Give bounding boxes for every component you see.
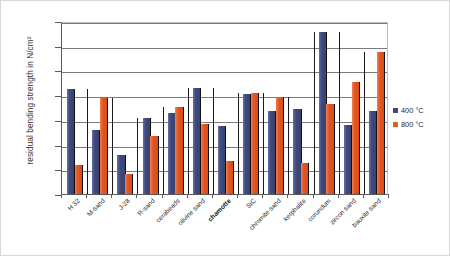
bar-group	[188, 23, 213, 194]
y-axis-tick-mark	[55, 22, 61, 23]
bar-800c	[251, 93, 259, 194]
legend-label: 400 °C	[401, 106, 424, 115]
x-axis-tick-mark	[363, 194, 364, 198]
bar-group	[137, 23, 162, 194]
bar-800c	[377, 52, 385, 194]
bar-800c	[201, 124, 209, 194]
bar-800c	[75, 165, 83, 194]
bar-800c	[276, 97, 284, 194]
bar-group	[314, 23, 339, 194]
x-axis-tick-mark	[136, 194, 137, 198]
y-axis-tick-mark	[55, 170, 61, 171]
y-axis-title: residual bending strength in N/cm²	[26, 6, 35, 196]
bar-800c	[100, 98, 108, 194]
y-axis-tick-mark	[55, 47, 61, 48]
x-axis-tick-mark	[187, 194, 188, 198]
chart-legend: 400 °C800 °C	[393, 106, 424, 134]
bar-group	[163, 23, 188, 194]
bar-800c	[301, 163, 309, 194]
x-axis-tick-mark	[262, 194, 263, 198]
plot-area	[61, 22, 388, 195]
x-axis-tick-mark	[388, 194, 389, 198]
x-axis-tick-mark	[212, 194, 213, 198]
legend-label: 800 °C	[401, 120, 424, 129]
bar-group	[288, 23, 313, 194]
bar-800c	[150, 136, 158, 194]
bar-group	[62, 23, 87, 194]
bar-800c	[326, 104, 334, 194]
bar-800c	[226, 161, 234, 194]
chart-container: residual bending strength in N/cm² 05010…	[0, 0, 450, 256]
bar-group	[87, 23, 112, 194]
y-axis-tick-mark	[55, 121, 61, 122]
legend-item: 800 °C	[393, 120, 424, 129]
bar-group	[364, 23, 389, 194]
x-axis: H 32M-sandJ-28R-sandcerabeadsolivine san…	[61, 197, 388, 255]
legend-swatch-icon	[393, 108, 398, 113]
x-axis-tick-mark	[313, 194, 314, 198]
y-axis-tick-mark	[55, 96, 61, 97]
x-axis-tick-mark	[287, 194, 288, 198]
bar-group	[238, 23, 263, 194]
bar-group	[339, 23, 364, 194]
y-axis-tick-mark	[55, 71, 61, 72]
bar-800c	[175, 107, 183, 194]
bar-group	[213, 23, 238, 194]
x-axis-tick-mark	[86, 194, 87, 198]
bar-group	[263, 23, 288, 194]
x-axis-tick-mark	[111, 194, 112, 198]
x-axis-tick-mark	[338, 194, 339, 198]
bar-800c	[125, 174, 133, 194]
bar-800c	[352, 82, 360, 194]
x-axis-tick-mark	[61, 194, 62, 198]
bar-group	[112, 23, 137, 194]
x-axis-tick-mark	[162, 194, 163, 198]
y-axis-tick-mark	[55, 146, 61, 147]
x-axis-tick-mark	[237, 194, 238, 198]
bar-series-layer	[62, 23, 387, 194]
legend-swatch-icon	[393, 122, 398, 127]
legend-item: 400 °C	[393, 106, 424, 115]
